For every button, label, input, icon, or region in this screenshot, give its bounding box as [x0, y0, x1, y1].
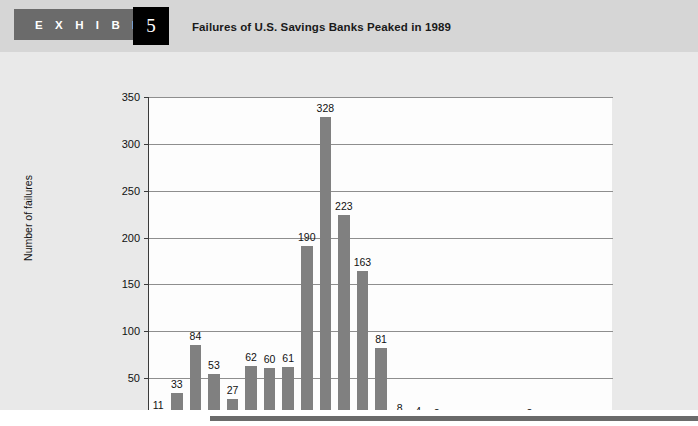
- y-tick-mark: [144, 284, 149, 285]
- gridline: [149, 97, 613, 98]
- plot-area: 050100150200250300350 113384532762606119…: [148, 97, 612, 425]
- exhibit-page: E X H I B I T 5 Failures of U.S. Savings…: [0, 0, 698, 426]
- y-tick-label: 350: [122, 91, 140, 103]
- footer-rule: [210, 416, 698, 421]
- chart-panel: Number of failures 050100150200250300350…: [0, 52, 698, 410]
- y-tick-mark: [144, 331, 149, 332]
- bar-value-label: 60: [264, 353, 276, 365]
- exhibit-number-badge: 5: [133, 7, 169, 45]
- bar-value-label: 84: [190, 330, 202, 342]
- bar: [301, 246, 313, 424]
- exhibit-title: Failures of U.S. Savings Banks Peaked in…: [192, 21, 451, 33]
- bar-value-label: 27: [227, 384, 239, 396]
- bar-value-label: 33: [171, 378, 183, 390]
- y-axis-title: Number of failures: [22, 138, 34, 298]
- y-tick-label: 100: [122, 325, 140, 337]
- y-tick-label: 200: [122, 232, 140, 244]
- bar-value-label: 81: [375, 333, 387, 345]
- exhibit-number: 5: [146, 15, 156, 37]
- gridline: [149, 191, 613, 192]
- exhibit-header-band: E X H I B I T 5 Failures of U.S. Savings…: [0, 0, 698, 52]
- bar-value-label: 223: [335, 200, 353, 212]
- bar-value-label: 61: [282, 352, 294, 364]
- gridline: [149, 284, 613, 285]
- y-tick-mark: [144, 97, 149, 98]
- gridline: [149, 144, 613, 145]
- y-tick-label: 300: [122, 138, 140, 150]
- bar-value-label: 53: [208, 359, 220, 371]
- y-tick-mark: [144, 144, 149, 145]
- y-tick-label: 150: [122, 278, 140, 290]
- bar: [320, 117, 332, 424]
- gridline: [149, 238, 613, 239]
- bar-value-label: 163: [354, 256, 372, 268]
- bar-value-label: 328: [317, 102, 335, 114]
- bar-value-label: 62: [245, 351, 257, 363]
- y-tick-mark: [144, 378, 149, 379]
- y-tick-mark: [144, 238, 149, 239]
- bar-value-label: 11: [153, 399, 164, 411]
- y-tick-label: 250: [122, 185, 140, 197]
- bar: [338, 215, 350, 424]
- y-tick-mark: [144, 191, 149, 192]
- y-tick-label: 50: [128, 372, 140, 384]
- bar-value-label: 190: [298, 231, 316, 243]
- bar: [357, 271, 369, 424]
